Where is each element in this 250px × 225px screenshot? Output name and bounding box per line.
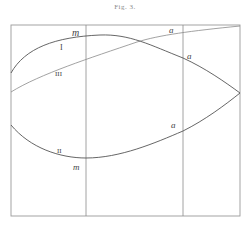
- label-m-upper: m: [72, 27, 79, 38]
- curve-II: [11, 93, 240, 158]
- label-a-upper: a: [187, 51, 192, 61]
- figure-diagram: I III II m m a a a: [0, 0, 250, 225]
- curve-III: [11, 26, 240, 92]
- curve-I: [11, 35, 240, 93]
- label-curve-II: II: [57, 147, 62, 155]
- label-a-top: a: [169, 25, 174, 35]
- label-curve-I: I: [60, 43, 63, 52]
- frame-border: [11, 25, 240, 216]
- label-a-lower: a: [171, 120, 176, 130]
- label-m-lower: m: [73, 162, 80, 172]
- label-curve-III: III: [55, 70, 63, 78]
